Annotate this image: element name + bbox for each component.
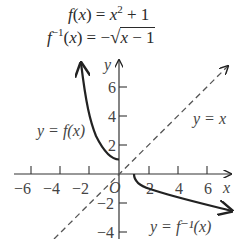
identity-line — [54, 66, 228, 239]
svg-text:6: 6 — [108, 79, 116, 96]
f-curve-label: y = f(x) — [35, 122, 85, 140]
f-inverse-curve-label: y = f⁻¹(x) — [148, 218, 211, 236]
y-ticks — [119, 87, 127, 232]
svg-text:−2: −2 — [97, 195, 114, 212]
origin-label: O — [109, 179, 121, 196]
svg-text:−6: −6 — [14, 180, 31, 197]
svg-text:4: 4 — [108, 108, 116, 125]
svg-text:−4: −4 — [43, 180, 60, 197]
svg-text:4: 4 — [175, 180, 183, 197]
svg-text:−2: −2 — [72, 180, 89, 197]
svg-text:2: 2 — [108, 137, 116, 154]
y-axis-label: y — [102, 56, 112, 74]
identity-line-label: y = x — [191, 110, 226, 128]
svg-text:−4: −4 — [97, 224, 114, 239]
svg-text:6: 6 — [204, 180, 212, 197]
graph: −6 −4 −2 2 4 6 6 4 2 −2 −4 O x y y = f(x… — [0, 0, 244, 239]
x-axis-label: x — [222, 179, 230, 196]
